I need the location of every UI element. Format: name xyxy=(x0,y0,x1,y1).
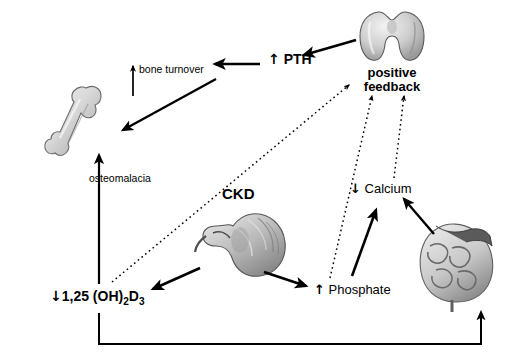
down-arrow-icon-vitamin-d: ↓ xyxy=(50,288,62,304)
arrow-intestine-to-calcium xyxy=(404,199,434,234)
label-positive-feedback: positive feedback xyxy=(355,66,429,93)
up-arrow-icon-pth: ↑ xyxy=(268,51,280,67)
kidney-graphic xyxy=(195,214,285,277)
label-calcium: ↓ Calcium xyxy=(350,182,412,196)
label-vitamin-d-text: 1,25 (OH) xyxy=(62,288,123,304)
label-pth-text: PTH xyxy=(284,51,312,67)
arrow-gland-to-pth xyxy=(304,40,356,55)
intestine-graphic xyxy=(420,224,493,312)
arrow-calcium-to-positive-feedback-dotted xyxy=(394,96,404,178)
label-calcium-text: Calcium xyxy=(365,181,412,196)
label-vitamin-d-tail: D xyxy=(129,288,139,304)
arrow-vitd-bottom-loop-to-intestine xyxy=(99,312,481,344)
diagram-canvas: ↑ PTH positive feedback bone turnover os… xyxy=(0,0,513,359)
label-pth: ↑ PTH xyxy=(268,52,312,67)
label-osteomalacia: osteomalacia xyxy=(89,173,151,184)
thyroid-parathyroid-gland-graphic xyxy=(360,12,424,60)
label-vitamin-d-sub2: 3 xyxy=(139,296,145,307)
label-phosphate: ↑ Phosphate xyxy=(314,283,391,297)
arrow-phosphate-to-calcium xyxy=(352,210,376,276)
label-bone-turnover: bone turnover xyxy=(139,64,204,75)
arrow-turnover-to-bone xyxy=(123,79,216,130)
up-arrow-icon-phosphate: ↑ xyxy=(314,282,325,297)
label-vitamin-d: ↓1,25 (OH)2D3 xyxy=(50,289,145,307)
label-phosphate-text: Phosphate xyxy=(329,282,391,297)
long-bone-graphic xyxy=(45,86,101,155)
arrow-kidney-to-phosphate xyxy=(264,272,306,286)
label-ckd: CKD xyxy=(222,186,255,202)
arrow-kidney-to-vitd xyxy=(153,268,200,289)
down-arrow-icon-calcium: ↓ xyxy=(350,181,361,196)
